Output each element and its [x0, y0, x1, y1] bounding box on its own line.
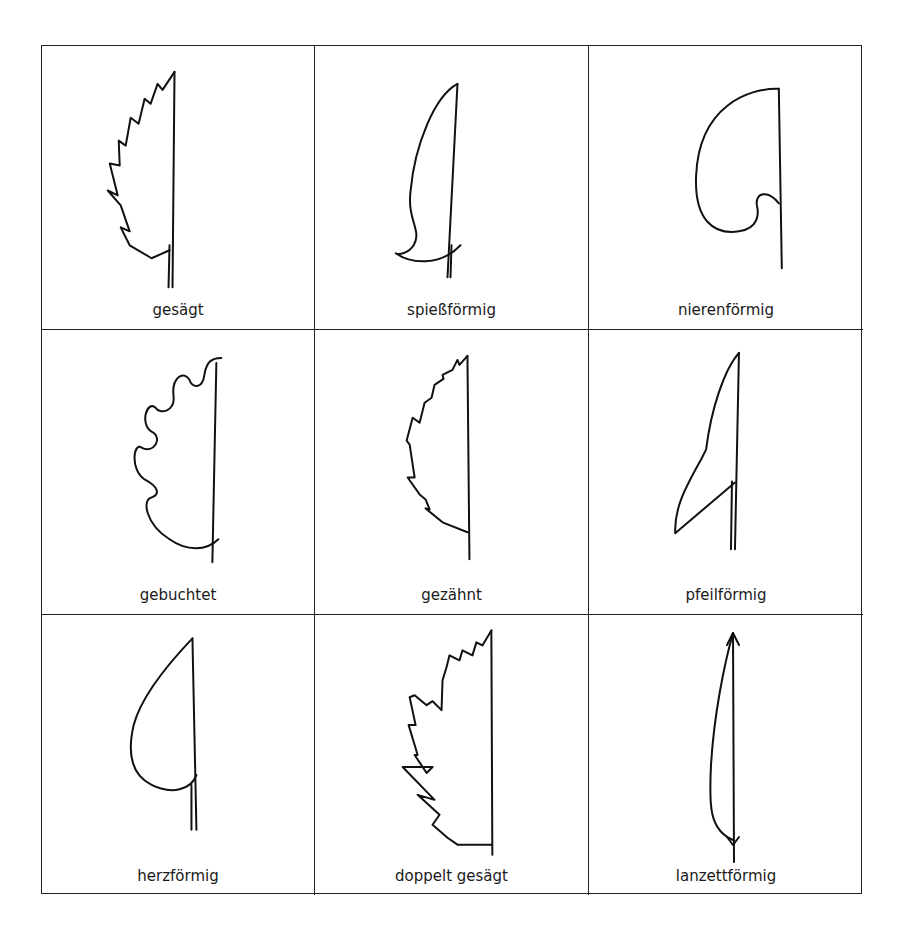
- cell-label: pfeilförmig: [589, 586, 863, 604]
- cell-gezaehnt: gezähnt: [315, 330, 589, 615]
- leaf-shape-grid: gesägt spießförmig nierenförmig gebuchte…: [41, 45, 862, 894]
- cell-label: spießförmig: [315, 301, 588, 319]
- cell-nierenfoermig: nierenförmig: [589, 46, 863, 330]
- hastate-leaf-icon: [315, 46, 588, 329]
- lanceolate-leaf-icon: [589, 615, 863, 895]
- sinuate-leaf-icon: [42, 330, 314, 614]
- cell-pfeilfoermig: pfeilförmig: [589, 330, 863, 615]
- cell-spiessfoermig: spießförmig: [315, 46, 589, 330]
- cell-label: herzförmig: [42, 867, 314, 885]
- cell-label: gezähnt: [315, 586, 588, 604]
- cell-gebuchtet: gebuchtet: [42, 330, 315, 615]
- cell-lanzettfoermig: lanzettförmig: [589, 615, 863, 895]
- cell-label: doppelt gesägt: [315, 867, 588, 885]
- cordate-leaf-icon: [42, 615, 314, 895]
- cell-gesaegt: gesägt: [42, 46, 315, 330]
- dentate-leaf-icon: [315, 330, 588, 614]
- sagittate-leaf-icon: [589, 330, 863, 614]
- cell-label: gebuchtet: [42, 586, 314, 604]
- cell-herzfoermig: herzförmig: [42, 615, 315, 895]
- cell-doppelt-gesaegt: doppelt gesägt: [315, 615, 589, 895]
- reniform-leaf-icon: [589, 46, 863, 329]
- serrate-leaf-icon: [42, 46, 314, 329]
- cell-label: gesägt: [42, 301, 314, 319]
- cell-label: nierenförmig: [589, 301, 863, 319]
- cell-label: lanzettförmig: [589, 867, 863, 885]
- doubly-serrate-leaf-icon: [315, 615, 588, 895]
